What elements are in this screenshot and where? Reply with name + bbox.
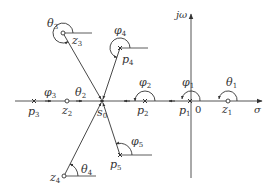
label-p2: p2 (137, 104, 149, 118)
arc-phi2 (135, 91, 155, 101)
point-labels: p1 p2 p3 p4 p5 z1 z2 z3 z4 (28, 34, 232, 185)
s-plane-diagram: jω σ 0 s (0, 0, 275, 192)
real-axis-label: σ (254, 104, 262, 115)
label-phi4: φ4 (114, 24, 127, 38)
label-p5: p5 (110, 158, 122, 172)
imag-axis-label: jω (174, 9, 187, 20)
label-phi1: φ1 (182, 76, 194, 90)
zero-z3 (61, 31, 65, 35)
label-phi2: φ2 (139, 76, 151, 90)
zeros (61, 31, 230, 178)
label-z3: z3 (71, 34, 82, 48)
label-phi3: φ3 (44, 86, 56, 100)
label-theta3: θ3 (47, 17, 58, 31)
label-p4: p4 (122, 53, 134, 67)
label-theta1: θ1 (226, 76, 237, 90)
label-p3: p3 (28, 105, 40, 119)
label-z2: z2 (61, 104, 72, 118)
zero-z2 (65, 99, 69, 103)
label-theta4: θ4 (81, 163, 93, 177)
label-z1: z1 (221, 103, 232, 117)
origin-label: 0 (195, 104, 201, 115)
arc-theta4 (70, 164, 78, 176)
label-z4: z4 (49, 171, 61, 185)
svg-text:s0: s0 (97, 106, 107, 120)
vector-p5 (103, 103, 120, 155)
vector-p4 (103, 48, 120, 99)
zero-z4 (62, 174, 66, 178)
label-phi5: φ5 (131, 135, 143, 149)
label-theta2: θ2 (75, 86, 86, 100)
label-p1: p1 (179, 104, 191, 118)
